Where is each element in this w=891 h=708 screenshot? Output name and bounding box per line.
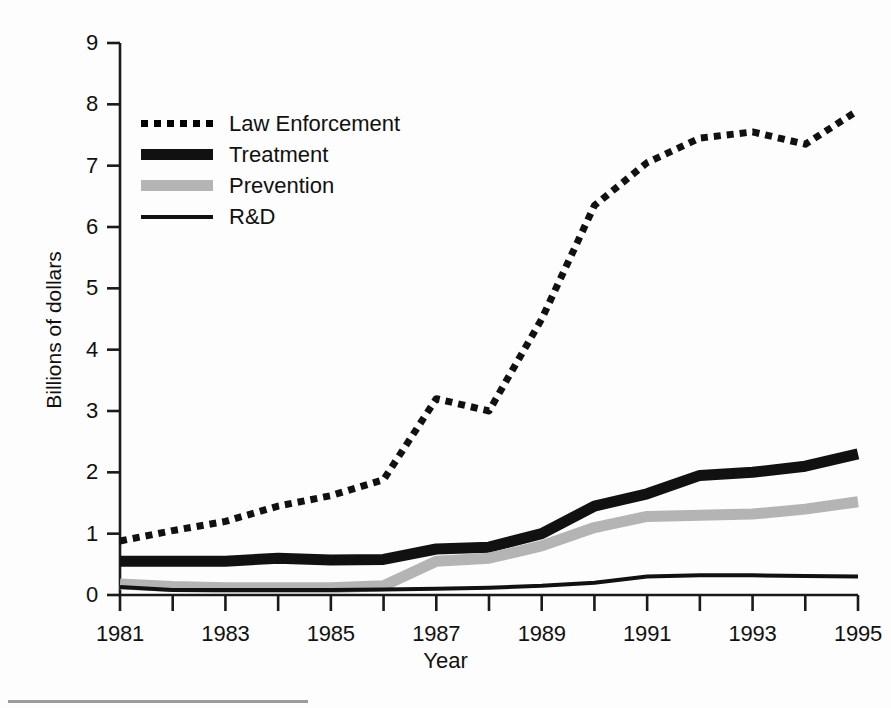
x-axis-tick-label: 1995	[834, 621, 882, 647]
legend-label-treatment: Treatment	[229, 144, 328, 166]
x-axis-tick-label: 1993	[728, 621, 776, 647]
x-axis-tick-label: 1987	[412, 621, 460, 647]
y-axis-tick-label: 8	[20, 91, 98, 117]
chart-legend: Law Enforcement Treatment Prevention R&D	[141, 108, 441, 232]
page-footer-rule	[8, 700, 308, 703]
legend-item-prevention: Prevention	[141, 170, 441, 201]
gray-band-swatch-icon	[141, 180, 213, 191]
y-axis-tick-label: 0	[20, 582, 98, 608]
legend-item-treatment: Treatment	[141, 139, 441, 170]
x-axis-tick-label: 1983	[201, 621, 249, 647]
thin-black-line-swatch-icon	[141, 215, 213, 219]
x-axis-tick-label: 1981	[96, 621, 144, 647]
dotted-line-swatch-icon	[141, 120, 213, 127]
legend-item-rd: R&D	[141, 201, 441, 232]
chart-plot-area	[0, 0, 891, 708]
chart-figure: 0123456789 19811983198519871989199119931…	[0, 0, 891, 708]
y-axis-tick-label: 7	[20, 153, 98, 179]
y-axis-tick-label: 9	[20, 30, 98, 56]
y-axis-title: Billions of dollars	[42, 210, 66, 450]
legend-label-rd: R&D	[229, 206, 275, 228]
x-axis-tick-label: 1989	[518, 621, 566, 647]
y-axis-tick-label: 2	[20, 459, 98, 485]
legend-label-prevention: Prevention	[229, 175, 334, 197]
series-line-treatment	[120, 454, 858, 561]
thick-black-line-swatch-icon	[141, 149, 213, 160]
x-axis-title: Year	[0, 648, 891, 674]
y-axis-tick-label: 1	[20, 521, 98, 547]
legend-label-law-enforcement: Law Enforcement	[229, 113, 400, 135]
x-axis-tick-label: 1991	[623, 621, 671, 647]
legend-item-law-enforcement: Law Enforcement	[141, 108, 441, 139]
x-axis-tick-label: 1985	[307, 621, 355, 647]
